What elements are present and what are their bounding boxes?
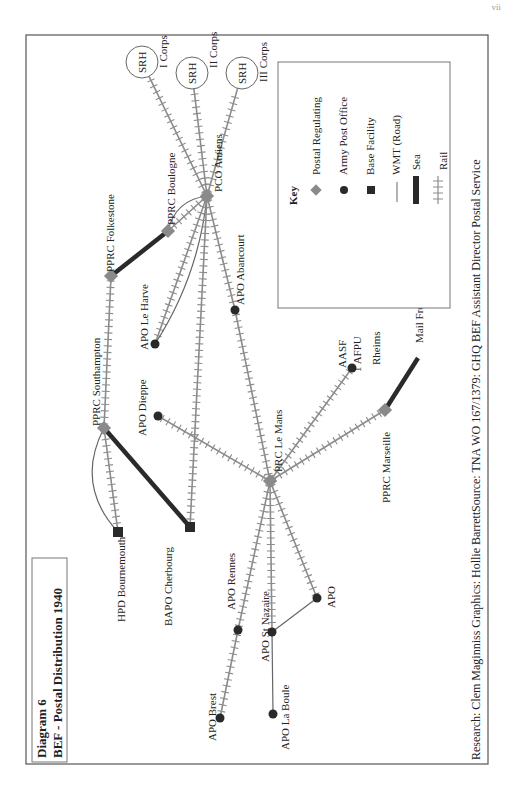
source-note: Source: TNA WO 167/1379: GHQ BEF Assista… (469, 159, 483, 512)
legend-label-apo: Army Post Office (337, 97, 349, 175)
label-dieppe: APO Dieppe (136, 379, 148, 436)
army-post-office-circle-icon (154, 412, 163, 421)
svg-text:I Corps: I Corps (157, 35, 169, 68)
label-boulogne: PPRC Boulogne (165, 152, 177, 225)
svg-text:III Corps: III Corps (257, 42, 269, 82)
legend-label-postal: Postal Regulating (310, 97, 322, 175)
rail-line (268, 481, 319, 598)
label-st-nazaire: APO St Nazaire (259, 591, 271, 662)
rail-line (270, 410, 385, 482)
label-brest: APO Brest (206, 693, 218, 741)
legend-sea-icon (413, 176, 419, 204)
credits-note: Research: Clem Maginniss Graphics: Holli… (469, 511, 483, 760)
rail-line (232, 310, 272, 481)
label-afpu: 1 AFPU (351, 336, 363, 372)
label-cherbourg: BAPO Cherbourg (162, 547, 174, 626)
postal-distribution-diagram: Diagram 6 BEF - Postal Distribution 1940… (0, 0, 515, 792)
legend: Key Postal Regulating Army Post Office B… (278, 62, 450, 308)
road-route (272, 598, 317, 632)
legend-label-base: Base Facility (364, 117, 376, 175)
label-rennes: APO Rennes (225, 553, 237, 610)
sea-route (104, 428, 190, 527)
army-post-office-circle-icon (269, 710, 278, 719)
rail-line (191, 89, 211, 196)
label-abancourt: APO Abancourt (234, 234, 246, 305)
label-apo: APO (325, 586, 337, 608)
sea-route (111, 231, 168, 276)
label-folkestone: PPRC Folkestone (104, 194, 116, 272)
label-le-harve: APO Le Harve (138, 284, 150, 350)
base-facility-square-icon (185, 522, 195, 532)
sea-route (385, 358, 418, 410)
legend-label-sea: Sea (410, 154, 422, 170)
army-post-office-circle-icon (151, 340, 160, 349)
legend-circle-icon (340, 186, 348, 194)
army-post-office-circle-icon (231, 306, 240, 315)
legend-square-icon (367, 186, 375, 194)
label-le-mans: PRC Le Mans (272, 410, 284, 472)
base-facility-square-icon (113, 527, 123, 537)
road-route (272, 632, 273, 714)
rail-line (100, 276, 115, 428)
rail-line (158, 415, 270, 481)
svg-text:II Corps: II Corps (207, 32, 219, 68)
label-rheims: Rheims (370, 331, 382, 365)
postal-regulating-diamond-icon (263, 474, 277, 488)
legend-label-rail: Rail (437, 152, 449, 170)
rail-line (204, 196, 237, 310)
label-la-boule: APO La Boule (279, 685, 291, 751)
army-post-office-circle-icon (234, 626, 243, 635)
label-amiens: PCO Amiens (212, 134, 224, 192)
legend-title: Key (287, 186, 299, 205)
svg-text:SRH: SRH (186, 63, 198, 84)
svg-text:SRH: SRH (236, 63, 248, 84)
srh-i-corps: SRH I Corps (126, 35, 169, 78)
label-southampton: PPRC Southampton (90, 337, 102, 426)
label-bournemouth: HPD Bournemouth (115, 536, 127, 622)
rail-line (217, 630, 240, 718)
label-marseille: PPRC Marseille (380, 432, 392, 503)
srh-iii-corps: SRH III Corps (226, 42, 269, 89)
diagram-title: BEF - Postal Distribution 1940 (50, 588, 65, 758)
srh-ii-corps: SRH II Corps (176, 32, 219, 89)
svg-text:SRH: SRH (136, 52, 148, 73)
army-post-office-circle-icon (313, 594, 322, 603)
label-aasf: AASF (336, 340, 348, 368)
legend-label-road: WMT (Road) (390, 115, 403, 175)
diagram-number: Diagram 6 (34, 699, 49, 758)
